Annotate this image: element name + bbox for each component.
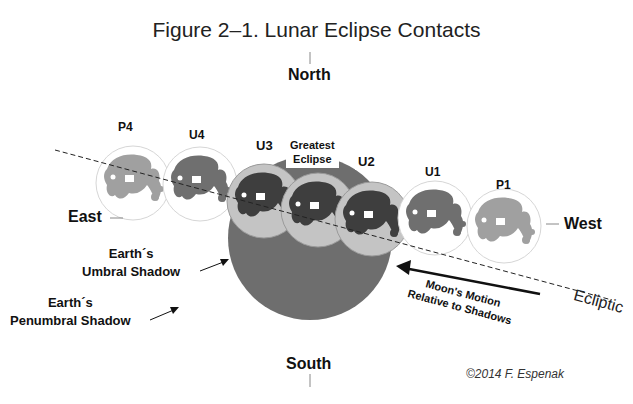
umbral-shadow-line1: Earth´s xyxy=(82,245,180,263)
greatest-eclipse-label: Greatest Eclipse xyxy=(286,136,339,168)
moon-u4 xyxy=(163,147,237,221)
contact-label-u1: U1 xyxy=(425,165,440,179)
west-label: West xyxy=(564,215,602,233)
copyright-credit: ©2014 F. Espenak xyxy=(466,367,564,381)
greatest-eclipse-line2: Eclipse xyxy=(290,152,335,166)
penumbral-shadow-label: Earth´s Penumbral Shadow xyxy=(10,294,131,330)
contact-label-u2: U2 xyxy=(355,153,378,170)
penumbral-shadow-line2: Penumbral Shadow xyxy=(10,312,131,330)
north-label: North xyxy=(288,66,331,84)
umbral-shadow-label: Earth´s Umbral Shadow xyxy=(82,245,180,281)
contact-label-u4: U4 xyxy=(189,128,204,142)
contact-label-u3: U3 xyxy=(253,137,276,154)
moon-u1 xyxy=(398,181,472,255)
penumbral-shadow-line1: Earth´s xyxy=(10,294,131,312)
greatest-eclipse-line1: Greatest xyxy=(290,138,335,152)
contact-label-p4: P4 xyxy=(118,120,133,134)
umbral-shadow-line2: Umbral Shadow xyxy=(82,263,180,281)
south-label: South xyxy=(286,355,331,373)
lunar-eclipse-diagram: Figure 2–1. Lunar Eclipse Contacts xyxy=(0,0,633,404)
diagram-canvas xyxy=(0,0,633,404)
moon-p1 xyxy=(467,189,541,263)
east-label: East xyxy=(68,208,102,226)
moon-p4 xyxy=(96,146,170,220)
contact-label-p1: P1 xyxy=(496,178,511,192)
